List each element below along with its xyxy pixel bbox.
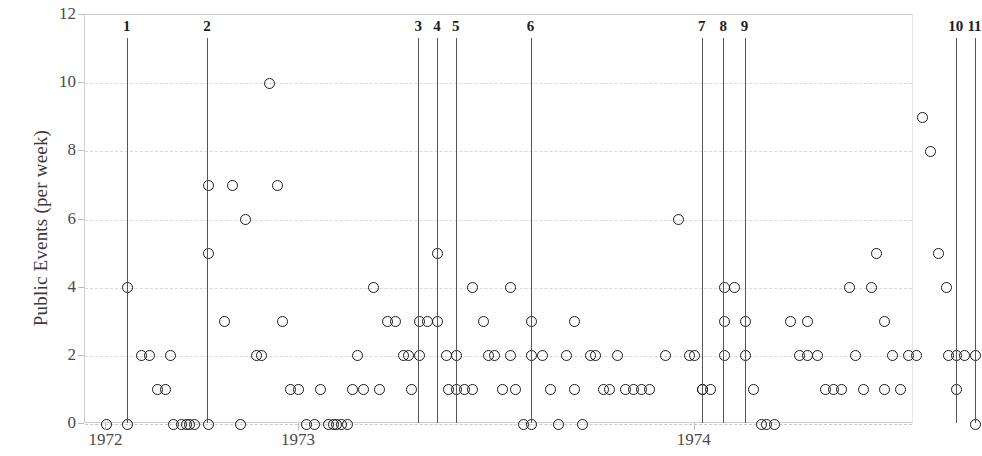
data-point bbox=[689, 350, 700, 361]
data-point bbox=[467, 282, 478, 293]
data-point bbox=[219, 316, 230, 327]
data-point bbox=[368, 282, 379, 293]
data-point bbox=[526, 419, 537, 430]
x-tick-mark-1974 bbox=[694, 423, 695, 430]
data-point bbox=[432, 248, 443, 259]
x-tick-mark-1972 bbox=[105, 423, 106, 430]
data-point bbox=[769, 419, 780, 430]
data-point bbox=[917, 112, 928, 123]
data-point bbox=[277, 316, 288, 327]
event-line-6 bbox=[531, 38, 532, 423]
data-point bbox=[561, 350, 572, 361]
data-point bbox=[740, 350, 751, 361]
x-axis-year-label: 1972 bbox=[88, 430, 122, 450]
y-tick-label-10: 10 bbox=[36, 72, 76, 92]
data-point bbox=[122, 419, 133, 430]
data-point bbox=[644, 384, 655, 395]
event-label-5: 5 bbox=[452, 18, 460, 35]
event-label-6: 6 bbox=[527, 18, 535, 35]
data-point bbox=[604, 384, 615, 395]
data-point bbox=[203, 248, 214, 259]
data-point bbox=[406, 384, 417, 395]
data-point bbox=[553, 419, 564, 430]
y-tick-label-12: 12 bbox=[36, 4, 76, 24]
event-line-9 bbox=[745, 38, 746, 423]
data-point bbox=[785, 316, 796, 327]
data-point bbox=[272, 180, 283, 191]
event-label-11: 11 bbox=[967, 18, 981, 35]
event-line-2 bbox=[207, 38, 208, 423]
data-point bbox=[293, 384, 304, 395]
data-point bbox=[497, 384, 508, 395]
data-point bbox=[203, 419, 214, 430]
data-point bbox=[871, 248, 882, 259]
y-tick-label-8: 8 bbox=[36, 140, 76, 160]
data-point bbox=[144, 350, 155, 361]
gridline-y-4 bbox=[85, 288, 912, 289]
event-label-10: 10 bbox=[948, 18, 963, 35]
data-point bbox=[925, 146, 936, 157]
data-point bbox=[235, 419, 246, 430]
data-point bbox=[526, 316, 537, 327]
data-point bbox=[403, 350, 414, 361]
data-point bbox=[729, 282, 740, 293]
data-point bbox=[264, 78, 275, 89]
data-point bbox=[887, 350, 898, 361]
y-tick-label-6: 6 bbox=[36, 209, 76, 229]
data-point bbox=[352, 350, 363, 361]
data-point bbox=[577, 419, 588, 430]
y-tick-label-4: 4 bbox=[36, 277, 76, 297]
data-point bbox=[489, 350, 500, 361]
event-line-5 bbox=[456, 38, 457, 423]
plot-area bbox=[84, 14, 913, 423]
x-tick-mark-1973 bbox=[298, 423, 299, 430]
data-point bbox=[812, 350, 823, 361]
data-point bbox=[836, 384, 847, 395]
data-point bbox=[545, 384, 556, 395]
data-point bbox=[673, 214, 684, 225]
data-point bbox=[203, 180, 214, 191]
data-point bbox=[569, 316, 580, 327]
y-tick-label-0: 0 bbox=[36, 413, 76, 433]
x-axis-year-label: 1974 bbox=[677, 430, 711, 450]
data-point bbox=[122, 282, 133, 293]
data-point bbox=[165, 350, 176, 361]
data-point bbox=[160, 384, 171, 395]
data-point bbox=[432, 316, 443, 327]
data-point bbox=[414, 350, 425, 361]
data-point bbox=[866, 282, 877, 293]
data-point bbox=[748, 384, 759, 395]
data-point bbox=[933, 248, 944, 259]
event-label-3: 3 bbox=[415, 18, 423, 35]
data-point bbox=[719, 316, 730, 327]
event-line-10 bbox=[956, 38, 957, 423]
event-label-7: 7 bbox=[698, 18, 706, 35]
data-point bbox=[740, 316, 751, 327]
data-point bbox=[227, 180, 238, 191]
event-label-4: 4 bbox=[433, 18, 441, 35]
event-line-1 bbox=[127, 38, 128, 423]
gridline-y-10 bbox=[85, 83, 912, 84]
data-point bbox=[358, 384, 369, 395]
data-point bbox=[342, 419, 353, 430]
event-label-8: 8 bbox=[719, 18, 727, 35]
y-tick-label-2: 2 bbox=[36, 345, 76, 365]
data-point bbox=[858, 384, 869, 395]
data-point bbox=[315, 384, 326, 395]
data-point bbox=[802, 316, 813, 327]
data-point bbox=[951, 384, 962, 395]
event-label-9: 9 bbox=[741, 18, 749, 35]
y-tick-mark-0 bbox=[78, 423, 84, 424]
data-point bbox=[802, 350, 813, 361]
data-point bbox=[590, 350, 601, 361]
data-point bbox=[941, 282, 952, 293]
gridline-y-8 bbox=[85, 151, 912, 152]
data-point bbox=[422, 316, 433, 327]
data-point bbox=[895, 384, 906, 395]
event-line-11 bbox=[975, 38, 976, 423]
event-line-4 bbox=[437, 38, 438, 423]
data-point bbox=[959, 350, 970, 361]
data-point bbox=[467, 384, 478, 395]
data-point bbox=[347, 384, 358, 395]
data-point bbox=[390, 316, 401, 327]
